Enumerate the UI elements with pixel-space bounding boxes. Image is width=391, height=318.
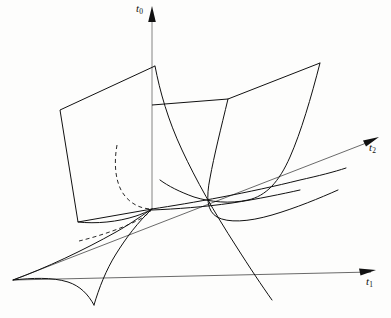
cusp-left-branch xyxy=(13,278,94,305)
ridge-right-segment xyxy=(228,63,320,99)
lower-left-flange-edge xyxy=(13,209,152,280)
middle-parabola xyxy=(208,99,338,221)
axis-label-t0: t0 xyxy=(136,3,143,16)
swallowtail-surface-drawing xyxy=(0,0,391,318)
axis-label-t2: t2 xyxy=(369,142,376,155)
upper-fold-ridge xyxy=(152,63,320,105)
cusp-right-branch xyxy=(94,209,152,305)
axis-label-t1-sub: 1 xyxy=(369,280,373,289)
front-descending-curve xyxy=(155,66,272,300)
axis-group xyxy=(13,6,379,280)
axis-line-t2 xyxy=(13,140,374,280)
hidden-interior-curve xyxy=(115,145,152,209)
axis-label-t1: t1 xyxy=(366,276,373,289)
left-sheet-edge-top xyxy=(60,66,155,110)
figure-container: t0 t2 t1 xyxy=(0,0,391,318)
left-flat-sheet xyxy=(60,66,155,222)
valley-rim-curve xyxy=(152,190,300,210)
axis-line-t1 xyxy=(13,272,371,280)
hidden-edge-group xyxy=(79,145,152,241)
surface-curve-group xyxy=(13,63,346,305)
axis-label-t0-sub: 0 xyxy=(139,7,143,16)
axis-arrow-t0 xyxy=(148,6,156,22)
axis-label-t2-sub: 2 xyxy=(372,146,376,155)
left-sheet-edge-left xyxy=(60,110,78,222)
